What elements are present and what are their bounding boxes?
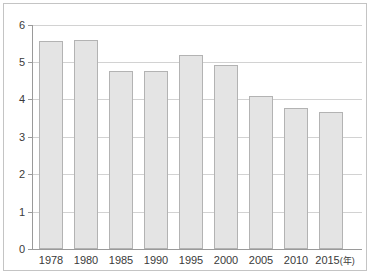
x-axis-label-1995: 1995: [179, 253, 203, 267]
x-axis-label-2010: 2010: [284, 253, 308, 267]
bar-chart-figure: 6 5 4 3 2 1 0: [3, 3, 367, 271]
bar-2010[interactable]: [284, 108, 308, 250]
bar-1978[interactable]: [39, 41, 63, 249]
x-axis-label-2000: 2000: [214, 253, 238, 267]
bar-2000[interactable]: [214, 65, 238, 249]
x-axis-label-1978: 1978: [39, 253, 63, 267]
y-axis-label-1: 1: [19, 207, 25, 218]
y-axis-label-6: 6: [19, 20, 25, 31]
bar-1985[interactable]: [109, 71, 133, 249]
y-axis-label-4: 4: [19, 94, 25, 105]
x-axis-label-1990: 1990: [144, 253, 168, 267]
y-axis-label-2: 2: [19, 169, 25, 180]
bars-layer: [32, 22, 362, 252]
x-axis-unit-label: (年): [340, 256, 355, 266]
y-axis-label-5: 5: [19, 57, 25, 68]
x-axis-label-1980: 1980: [74, 253, 98, 267]
plot-area: 6 5 4 3 2 1 0: [32, 22, 362, 252]
y-axis-label-0: 0: [19, 244, 25, 255]
bar-1980[interactable]: [74, 40, 98, 249]
x-axis-label-1985: 1985: [109, 253, 133, 267]
x-axis-label-2015-text: 2015: [315, 254, 339, 266]
bar-1995[interactable]: [179, 55, 203, 249]
bar-1990[interactable]: [144, 71, 168, 250]
x-axis-label-2005: 2005: [249, 253, 273, 267]
bar-2015[interactable]: [319, 112, 343, 249]
bar-2005[interactable]: [249, 96, 273, 249]
x-axis-labels: 1978 1980 1985 1990 1995 2000 2005 2010 …: [32, 253, 366, 271]
x-axis-label-2015: 2015(年): [315, 253, 354, 268]
y-axis-label-3: 3: [19, 132, 25, 143]
